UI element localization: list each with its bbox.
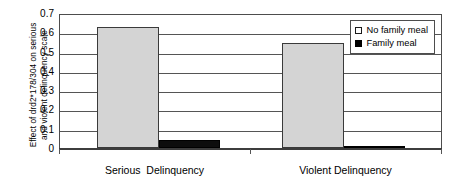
y-tick-label-0-5: 0.5 <box>30 48 54 58</box>
y-tick-label-0-4: 0.4 <box>30 67 54 77</box>
legend-item-no-family-meal: No family meal <box>355 24 428 37</box>
x-tick-mark-mid <box>250 149 251 154</box>
bar-chart: Effect of drd2*178/304 on serious and vi… <box>0 0 450 190</box>
plot-area: No family meal Family meal <box>59 14 442 149</box>
legend-swatch-icon-family-meal <box>355 40 362 47</box>
x-category-label-violent-delinquency: Violent Delinquency <box>250 164 441 176</box>
y-tick-label-0-1: 0.1 <box>30 125 54 135</box>
y-tick-label-0-6: 0.6 <box>30 28 54 38</box>
legend-label-no-family-meal: No family meal <box>367 24 428 37</box>
bar-serious-family-meal <box>159 140 220 148</box>
legend-item-family-meal: Family meal <box>355 37 428 50</box>
y-tick-label-0-2: 0.2 <box>30 105 54 115</box>
y-tick-label-0-3: 0.3 <box>30 86 54 96</box>
x-tick-mark-end <box>441 149 442 154</box>
legend-label-family-meal: Family meal <box>367 37 417 50</box>
y-tick-label-0: 0 <box>30 144 54 154</box>
bar-serious-no-family-meal <box>97 27 159 149</box>
y-axis-title: Effect of drd2*178/304 on serious and vi… <box>0 0 30 168</box>
bar-violent-no-family-meal <box>282 43 344 148</box>
y-tick-label-0-7: 0.7 <box>30 9 54 19</box>
y-axis-tick-labels: 0.7 0.6 0.5 0.4 0.3 0.2 0.1 0 <box>28 0 54 190</box>
x-tick-mark-start <box>59 149 60 154</box>
legend-swatch-icon-no-family-meal <box>355 27 362 34</box>
chart-legend: No family meal Family meal <box>350 20 435 54</box>
x-category-label-serious-delinquency: Serious Delinquency <box>59 164 250 176</box>
